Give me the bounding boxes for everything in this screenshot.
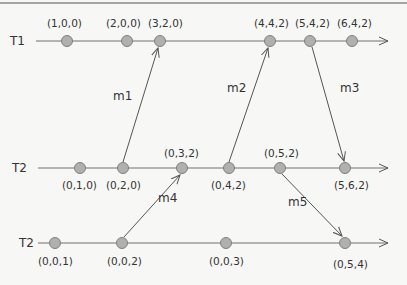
timeline-t3: T2 xyxy=(18,236,388,250)
clock-label: (5,6,2) xyxy=(334,179,369,191)
event-node xyxy=(122,36,133,47)
clock-label: (0,0,3) xyxy=(209,255,244,267)
clock-label: (0,3,2) xyxy=(164,147,199,159)
clock-label: (0,1,0) xyxy=(62,179,97,191)
event-node xyxy=(75,163,86,174)
clock-label: (5,4,2) xyxy=(295,17,330,29)
clock-label: (0,2,0) xyxy=(106,179,141,191)
clock-label: (6,4,2) xyxy=(337,17,372,29)
process-label: T2 xyxy=(18,236,34,250)
event-node xyxy=(62,36,73,47)
message-m4-label: m4 xyxy=(158,191,177,205)
event-node xyxy=(305,36,316,47)
clock-label: (2,0,0) xyxy=(106,17,141,29)
event-node xyxy=(275,163,286,174)
timeline-t2: T2 xyxy=(11,161,388,175)
event-node xyxy=(224,163,235,174)
event-node xyxy=(347,36,358,47)
message-m3-label: m3 xyxy=(340,81,359,95)
event-node xyxy=(265,36,276,47)
event-node xyxy=(177,163,188,174)
clock-label: (0,0,2) xyxy=(107,255,142,267)
messages xyxy=(123,47,344,237)
message-m3-arrow xyxy=(312,47,344,161)
vector-clock-diagram: T1 T2 T2 m1 m2 m3 m4 m5 (1,0,0) (2,0,0) … xyxy=(0,0,407,285)
event-node xyxy=(340,163,351,174)
event-node xyxy=(340,238,351,249)
event-node xyxy=(221,238,232,249)
message-m1-arrow xyxy=(123,48,158,162)
event-node xyxy=(118,163,129,174)
clock-label: (3,2,0) xyxy=(148,17,183,29)
process-label: T1 xyxy=(9,34,25,48)
clock-label: (4,4,2) xyxy=(254,17,289,29)
event-node xyxy=(117,238,128,249)
clock-label: (0,5,2) xyxy=(264,147,299,159)
message-m2-arrow xyxy=(229,48,268,162)
clock-label: (0,4,2) xyxy=(211,179,246,191)
process-label: T2 xyxy=(11,161,27,175)
event-node xyxy=(155,36,166,47)
clock-label: (0,5,4) xyxy=(333,258,368,270)
clock-label: (1,0,0) xyxy=(47,17,82,29)
clock-label: (0,0,1) xyxy=(38,255,73,267)
message-m2-label: m2 xyxy=(227,81,246,95)
event-node xyxy=(50,238,61,249)
message-m1-label: m1 xyxy=(113,89,132,103)
message-m5-label: m5 xyxy=(288,195,307,209)
